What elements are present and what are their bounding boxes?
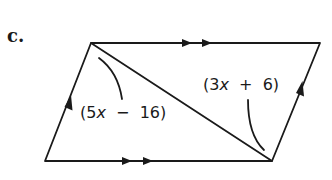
constant: 16 <box>140 103 160 122</box>
parallelogram-diagram: c. (5x − 16) (3x + 6) <box>0 0 332 180</box>
arrow-icon <box>143 157 153 165</box>
angle-label-left: (5x − 16) <box>80 103 166 122</box>
variable: x <box>96 103 105 122</box>
constant: 6 <box>263 75 273 94</box>
angle-arc-right <box>248 100 264 150</box>
coef: 3 <box>209 75 219 94</box>
operator: − <box>116 103 129 122</box>
diagonal-line <box>91 43 272 161</box>
arrow-icon <box>202 39 212 47</box>
arrow-icon <box>122 157 132 165</box>
parallel-arrow-marks <box>65 39 305 165</box>
parallelogram-figure <box>0 0 332 180</box>
part-label: c. <box>7 25 24 46</box>
coef: 5 <box>86 103 96 122</box>
variable: x <box>219 75 228 94</box>
angle-arc-left <box>99 58 122 99</box>
operator: + <box>239 75 252 94</box>
arrow-icon <box>182 39 192 47</box>
angle-label-right: (3x + 6) <box>203 75 279 94</box>
